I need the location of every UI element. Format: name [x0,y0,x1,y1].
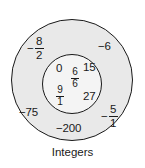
minus-sign: − [27,43,34,55]
fraction-denominator: 1 [56,97,63,108]
set-member-neg-five-over-one: − 5 1 [101,104,118,129]
fraction-neg-eight-halves: − 8 2 [27,36,44,61]
set-member-neg-seventy-five: −75 [19,107,38,119]
fraction-six-sixths: 6 6 [71,67,79,89]
fraction-stack: 8 2 [35,36,44,61]
set-member-neg-two-hundred: −200 [56,123,81,135]
fraction-denominator: 2 [35,49,43,61]
minus-sign: − [101,111,108,123]
set-member-zero: 0 [56,63,62,75]
set-member-twenty-seven: 27 [83,91,95,103]
fraction-numerator: 8 [35,36,43,48]
set-member-fifteen: 15 [83,62,95,74]
set-member-six-sixths: 6 6 [71,67,79,89]
fraction-neg-five-over-one: − 5 1 [101,104,118,129]
set-member-neg-eight-halves: − 8 2 [27,36,44,61]
fraction-denominator: 6 [71,79,78,90]
set-member-nine-over-one: 9 1 [56,85,64,107]
fraction-numerator: 5 [109,104,117,116]
fraction-stack: 9 1 [56,85,64,107]
fraction-stack: 5 1 [109,104,118,129]
diagram-caption: Integers [0,146,145,158]
set-member-neg-six: −6 [98,41,111,53]
fraction-numerator: 9 [56,85,63,96]
fraction-stack: 6 6 [71,67,79,89]
integers-set-diagram: − 8 2 −6 −75 − 5 1 −200 0 6 6 [0,0,145,168]
fraction-nine-over-one: 9 1 [56,85,64,107]
fraction-numerator: 6 [71,67,78,78]
fraction-denominator: 1 [109,117,117,129]
